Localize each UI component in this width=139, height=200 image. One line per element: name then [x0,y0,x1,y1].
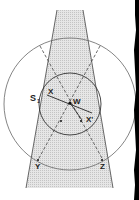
label-y: Y [35,162,41,171]
label-s1: S [30,93,36,103]
label-x-prime: X' [86,115,93,124]
label-z: Z [100,162,105,171]
scan-edge-border [134,0,139,200]
point-z [101,159,103,161]
label-w: W [73,97,81,106]
label-x: X [48,87,54,96]
diagram-canvas: S 1 X W X' Y Z [0,0,139,200]
label-s1-sub: 1 [37,98,40,104]
point-lower-left [60,120,62,122]
point-lower-right [80,120,82,122]
point-y [37,159,39,161]
point-w [69,102,72,105]
